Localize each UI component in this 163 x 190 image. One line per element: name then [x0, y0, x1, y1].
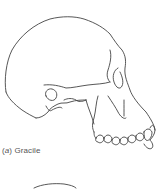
zygomatic-line — [44, 82, 110, 88]
caption-label: Gracile — [14, 146, 40, 155]
gracile-skull-drawing — [0, 0, 163, 190]
orbit-outline — [113, 68, 123, 88]
maxilla-line — [108, 96, 126, 119]
skull-figure: (a) Gracile — [0, 0, 163, 190]
ramus-front — [86, 100, 94, 124]
ramus-line — [93, 96, 99, 132]
cranial-vault-outline — [5, 17, 155, 140]
occipital-outline — [6, 92, 36, 118]
second-skull-top — [34, 184, 76, 188]
muzzle-front — [144, 140, 153, 149]
ear-opening — [45, 89, 56, 101]
caption-close-paren: ) — [9, 146, 12, 155]
cranial-base-line — [36, 100, 86, 118]
lower-jaw-line — [94, 132, 96, 138]
panel-a-caption: (a) Gracile — [2, 146, 40, 155]
tooth-row — [96, 125, 155, 145]
brow-ridge — [107, 50, 111, 82]
